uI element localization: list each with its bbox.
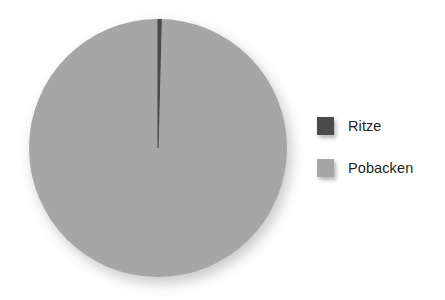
- legend-swatch-pobacken: [317, 159, 334, 177]
- pie-chart-plot-area: [29, 19, 287, 277]
- legend-label-ritze: Ritze: [348, 118, 382, 134]
- legend-item-ritze[interactable]: Ritze: [317, 105, 442, 147]
- pie-chart-figure: Ritze Pobacken: [0, 0, 445, 300]
- legend-item-pobacken[interactable]: Pobacken: [317, 147, 442, 189]
- legend-swatch-ritze: [317, 117, 334, 135]
- legend-label-pobacken: Pobacken: [348, 160, 413, 176]
- pie-graphic: [29, 19, 287, 277]
- chart-legend: Ritze Pobacken: [317, 105, 442, 189]
